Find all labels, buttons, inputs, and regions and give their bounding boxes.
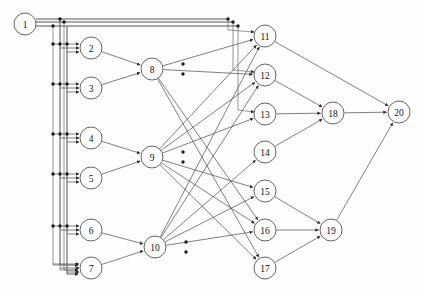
node-label: 10 [150, 243, 160, 253]
junction-dot [58, 17, 61, 20]
graph-edge [165, 197, 254, 242]
node-label: 19 [326, 226, 336, 236]
graph-node-12[interactable]: 12 [254, 64, 276, 86]
node-label: 18 [328, 109, 338, 119]
bus-route [36, 19, 254, 32]
node-label: 16 [260, 226, 270, 236]
graph-svg: 1234567891011121314151617181920 [0, 0, 424, 294]
junction-dot [231, 20, 234, 23]
node-label: 4 [89, 134, 94, 144]
bus-route [60, 226, 78, 270]
graph-node-11[interactable]: 11 [254, 25, 276, 47]
graph-edge [275, 81, 322, 107]
node-label: 3 [89, 84, 94, 94]
graph-node-8[interactable]: 8 [141, 58, 163, 80]
graph-edge [163, 118, 254, 152]
junction-dot [181, 160, 184, 163]
node-label: 9 [150, 153, 155, 163]
junction-dot [181, 62, 184, 65]
graph-node-13[interactable]: 13 [254, 103, 276, 125]
node-label: 13 [260, 110, 270, 120]
graph-edge [102, 73, 140, 85]
graph-node-7[interactable]: 7 [80, 257, 102, 279]
graph-edge [275, 236, 320, 262]
graph-edge [275, 197, 320, 224]
junction-dot [181, 150, 184, 153]
node-label: 7 [89, 264, 94, 274]
junction-dot [184, 250, 187, 253]
graph-node-1[interactable]: 1 [14, 13, 36, 35]
graph-edge [158, 79, 259, 257]
node-label: 14 [260, 148, 270, 158]
junction-dot [51, 24, 54, 27]
junction-dot [58, 82, 61, 85]
junction-dot [65, 82, 68, 85]
graph-edge [102, 161, 140, 174]
graph-edge [277, 113, 321, 114]
graph-node-19[interactable]: 19 [320, 219, 342, 241]
graph-edge [102, 52, 140, 65]
junction-dot [184, 240, 187, 243]
junction-dot [62, 20, 65, 23]
node-label: 8 [150, 65, 155, 75]
node-label: 11 [260, 32, 269, 42]
graph-node-9[interactable]: 9 [141, 146, 163, 168]
node-label: 12 [260, 71, 270, 81]
junction-dot [58, 42, 61, 45]
junction-dot [236, 24, 239, 27]
graph-node-5[interactable]: 5 [80, 167, 102, 189]
junction-dot [51, 42, 54, 45]
edge-layer [53, 40, 393, 273]
bus-route [67, 26, 78, 274]
graph-node-16[interactable]: 16 [254, 219, 276, 241]
graph-node-20[interactable]: 20 [388, 101, 410, 123]
junction-dot [58, 224, 61, 227]
graph-node-14[interactable]: 14 [254, 141, 276, 163]
bus-route [53, 226, 78, 265]
junction-dot [58, 172, 61, 175]
graph-canvas: 1234567891011121314151617181920 [0, 0, 424, 294]
junction-dot [51, 82, 54, 85]
node-layer: 1234567891011121314151617181920 [14, 13, 410, 279]
node-label: 15 [260, 187, 270, 197]
graph-edge [345, 112, 387, 113]
graph-node-17[interactable]: 17 [254, 257, 276, 279]
bus-route [64, 22, 78, 270]
node-label: 2 [89, 44, 94, 54]
graph-node-3[interactable]: 3 [80, 77, 102, 99]
graph-node-6[interactable]: 6 [80, 219, 102, 241]
node-label: 17 [260, 264, 270, 274]
graph-edge [163, 40, 253, 66]
graph-edge [275, 119, 322, 146]
graph-edge [161, 82, 255, 150]
graph-node-18[interactable]: 18 [322, 102, 344, 124]
junction-dot [65, 132, 68, 135]
junction-dot [51, 132, 54, 135]
graph-edge [102, 141, 140, 153]
graph-node-15[interactable]: 15 [254, 180, 276, 202]
graph-edge [102, 251, 143, 265]
junction-dot [181, 72, 184, 75]
graph-edge [337, 123, 393, 220]
graph-edge [161, 86, 258, 238]
junction-dot [58, 132, 61, 135]
node-label: 20 [394, 108, 404, 118]
node-label: 1 [23, 20, 28, 30]
graph-node-10[interactable]: 10 [144, 236, 166, 258]
junction-dot [51, 224, 54, 227]
graph-edge [275, 42, 388, 106]
junction-dot [65, 224, 68, 227]
junction-dot [65, 42, 68, 45]
junction-dot [226, 17, 229, 20]
node-label: 5 [89, 174, 94, 184]
graph-edge [160, 45, 257, 148]
graph-node-2[interactable]: 2 [80, 37, 102, 59]
junction-dot [65, 172, 68, 175]
junction-dot [51, 172, 54, 175]
node-label: 6 [89, 226, 94, 236]
graph-edge [160, 165, 256, 259]
graph-edge [102, 233, 143, 244]
bus-route-layer [36, 19, 254, 274]
graph-edge [160, 47, 259, 237]
graph-node-4[interactable]: 4 [80, 127, 102, 149]
